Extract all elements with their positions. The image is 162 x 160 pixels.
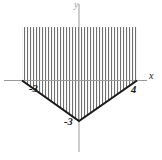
y-tick-label-negative-three: -3 <box>64 117 73 128</box>
x-axis-label: x <box>149 71 153 81</box>
y-axis-label: y <box>74 0 78 10</box>
figure-container: y x -3 4 -3 <box>0 0 162 160</box>
x-tick-label-four: 4 <box>131 85 136 96</box>
x-tick-label-negative-three: -3 <box>29 84 38 95</box>
plot-canvas <box>0 0 162 160</box>
